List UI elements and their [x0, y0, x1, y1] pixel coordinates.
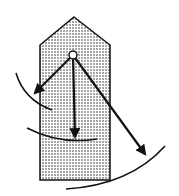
- pivot-point: [69, 51, 77, 59]
- diagram-canvas: [0, 0, 179, 196]
